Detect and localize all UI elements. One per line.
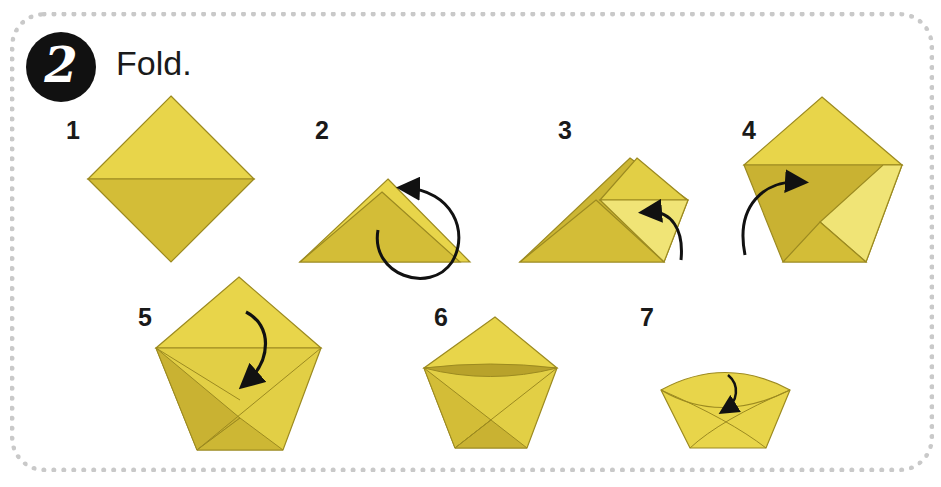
diagram-step-5 xyxy=(156,277,321,450)
diagram-step-7 xyxy=(661,373,790,449)
fold-diagrams xyxy=(0,0,941,487)
diagram-step-4 xyxy=(743,97,902,262)
diagram-step-1 xyxy=(88,96,254,262)
diagram-step-2 xyxy=(300,179,470,278)
diagram-step-3 xyxy=(520,158,688,262)
diagram-step-6 xyxy=(424,317,557,448)
